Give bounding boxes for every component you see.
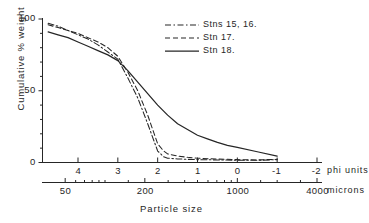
axis-lines <box>42 18 322 183</box>
micron-tick-label-1000: 1000 <box>227 185 250 196</box>
y-tick-label-100: 100 <box>19 12 36 23</box>
microns-axis-ticks <box>65 178 317 183</box>
y-axis-ticks <box>39 19 43 163</box>
data-curves <box>48 23 277 160</box>
curve-series-2 <box>48 32 277 156</box>
legend-label-1: Stn 17. <box>203 32 235 42</box>
phi-tick-label-1: 1 <box>195 165 201 176</box>
phi-tick-label-0: 0 <box>235 165 241 176</box>
phi-tick-label-4: 4 <box>75 165 81 176</box>
phi-tick-label-2: 2 <box>155 165 161 176</box>
legend-label-2: Stn 18. <box>203 45 235 55</box>
micron-tick-label-200: 200 <box>137 185 154 196</box>
phi-tick-label-neg2: -2 <box>312 165 321 176</box>
y-tick-label-0: 0 <box>30 156 36 167</box>
microns-label: microns <box>327 185 365 195</box>
micron-tick-label-4000: 4000 <box>306 185 329 196</box>
phi-tick-label-3: 3 <box>115 165 121 176</box>
phi-units-label: phi units <box>327 165 369 175</box>
y-tick-label-50: 50 <box>24 84 35 95</box>
x-axis-title: Particle size <box>140 203 203 214</box>
legend-label-0: Stns 15, 16. <box>203 19 257 29</box>
phi-tick-label-neg1: -1 <box>272 165 281 176</box>
micron-tick-label-50: 50 <box>60 185 71 196</box>
curve-series-1 <box>48 25 277 160</box>
legend-line-samples <box>165 25 199 51</box>
